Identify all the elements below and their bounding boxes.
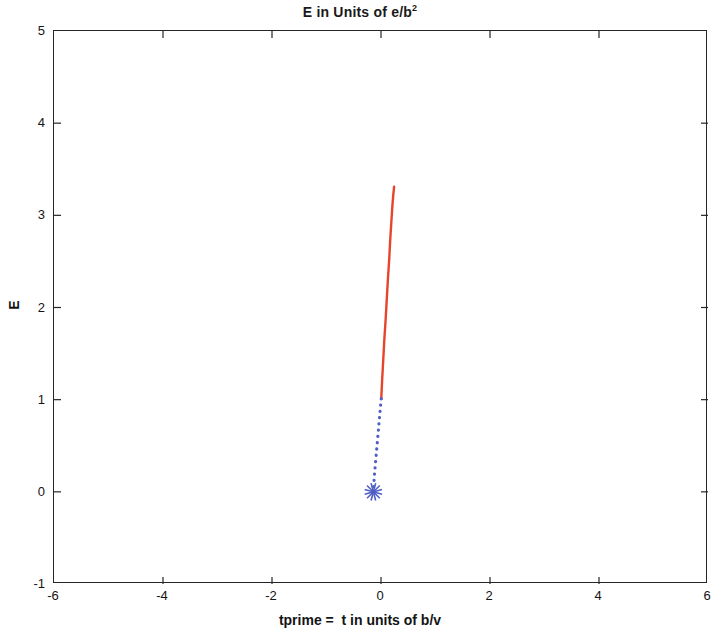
x-tick-label: 4 bbox=[594, 588, 601, 603]
y-tick-label: 4 bbox=[0, 115, 45, 130]
y-tick-label: 3 bbox=[0, 207, 45, 222]
plot-svg bbox=[54, 31, 708, 584]
x-tick-label: -4 bbox=[156, 588, 168, 603]
chart-title-text: E in Units of e/b bbox=[303, 4, 412, 20]
chart-title: E in Units of e/b2 bbox=[0, 4, 720, 20]
figure-canvas: E in Units of e/b2 -6-4-20246 -1012345 t… bbox=[0, 0, 720, 637]
y-tick-label: -1 bbox=[0, 576, 45, 591]
y-axis-label: E bbox=[6, 279, 22, 331]
y-tick-label: 0 bbox=[0, 483, 45, 498]
y-tick-marks bbox=[54, 123, 708, 492]
plot-area bbox=[53, 30, 707, 583]
x-axis-label: tprime = t in units of b/v bbox=[0, 612, 720, 628]
x-tick-label: -2 bbox=[265, 588, 277, 603]
blue-dotted-branch bbox=[373, 399, 381, 492]
red-solid-branch bbox=[381, 187, 394, 399]
data-series-group bbox=[365, 187, 394, 501]
x-tick-label: 0 bbox=[376, 588, 383, 603]
y-tick-label: 1 bbox=[0, 391, 45, 406]
x-tick-label: 2 bbox=[485, 588, 492, 603]
chart-title-superscript: 2 bbox=[412, 3, 417, 13]
x-tick-label: -6 bbox=[47, 588, 59, 603]
y-tick-label: 5 bbox=[0, 23, 45, 38]
x-tick-marks bbox=[163, 31, 599, 584]
x-tick-label: 6 bbox=[703, 588, 710, 603]
